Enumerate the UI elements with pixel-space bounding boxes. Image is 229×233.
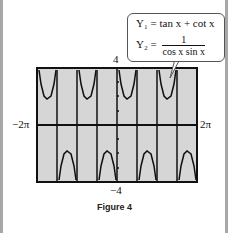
equation-y1: Y₁ = tan x + cot x [136,17,215,29]
y-min-label: −4 [110,184,122,196]
figure-caption: Figure 4 [0,202,229,212]
equation-y2-fraction: 1 cos x sin x [162,34,205,57]
x-min-label: −2π [12,118,29,130]
equation-callout: Y₁ = tan x + cot x Y₂ = 1 cos x sin x [127,13,225,62]
fraction-numerator: 1 [162,34,205,46]
x-max-label: 2π [200,118,211,130]
equation-y2-lhs: Y₂ = [136,38,157,50]
equation-y2: Y₂ = 1 cos x sin x [136,34,205,57]
y-max-label: 4 [113,53,119,65]
fraction-denominator: cos x sin x [162,46,205,57]
